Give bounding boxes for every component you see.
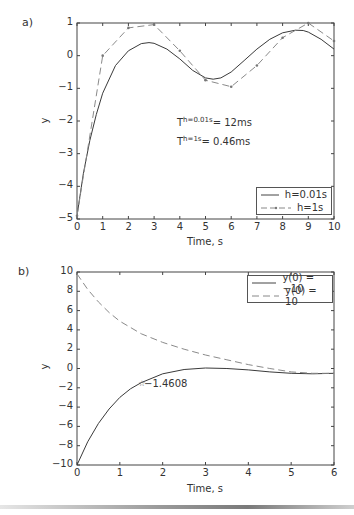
panel-b-plot: ☆ bbox=[0, 0, 354, 515]
legend-dashed-line-icon bbox=[252, 291, 279, 301]
panel-b-series-line bbox=[77, 368, 334, 465]
legend-solid-line-icon bbox=[252, 278, 276, 288]
panel-b-marker-label: −1.4608 bbox=[144, 378, 187, 389]
legend-label: y(0) = 10 bbox=[285, 285, 328, 307]
panel-b-legend: y(0) = −10 y(0) = 10 bbox=[247, 275, 333, 303]
page-edge-divider bbox=[0, 505, 354, 509]
legend-entry-y0-10: y(0) = 10 bbox=[248, 289, 332, 302]
